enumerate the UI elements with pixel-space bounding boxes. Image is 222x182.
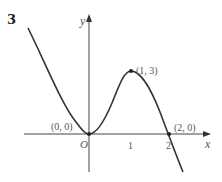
x-axis-label: x	[204, 137, 211, 151]
tick-label-1: 1	[128, 140, 133, 151]
graph: 3 y x O 1 2 (0, 0) (1, 3) (2, 0)	[0, 0, 222, 182]
point-origin-label: (0, 0)	[51, 121, 73, 133]
point-max-label: (1, 3)	[136, 65, 158, 77]
function-curve	[28, 28, 183, 172]
question-number: 3	[7, 12, 16, 27]
y-axis-arrow-icon	[86, 14, 92, 22]
point-max	[129, 69, 133, 73]
tick-label-2: 2	[166, 140, 171, 151]
point-root	[167, 132, 171, 136]
point-root-label: (2, 0)	[174, 122, 196, 134]
point-origin	[87, 132, 91, 136]
origin-label: O	[80, 138, 88, 150]
y-axis-label: y	[79, 14, 86, 28]
